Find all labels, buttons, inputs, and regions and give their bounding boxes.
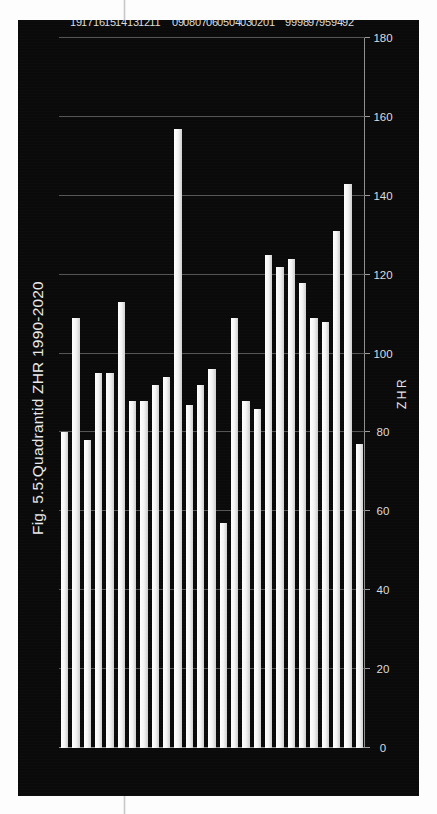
- y-tick-label: 02: [251, 20, 263, 28]
- x-tick-mark: [365, 274, 370, 275]
- chart-title: Fig. 5.5:Quadrantid ZHR 1990-2020: [29, 24, 47, 792]
- bar: [117, 302, 124, 748]
- bar: [276, 267, 283, 748]
- y-tick-label: 04: [228, 20, 240, 28]
- x-tick-label: 20: [376, 663, 389, 675]
- y-tick-label: 03: [239, 20, 251, 28]
- y-tick-label: 17: [81, 20, 93, 28]
- bar: [197, 385, 204, 748]
- bar: [61, 432, 68, 748]
- x-tick-mark: [365, 353, 370, 354]
- figure-panel: Fig. 5.5:Quadrantid ZHR 1990-2020 020406…: [18, 20, 419, 796]
- bar: [299, 283, 306, 748]
- bar: [344, 184, 351, 748]
- bar: [219, 523, 226, 748]
- gridline: [59, 353, 365, 354]
- x-tick-label: 160: [373, 111, 392, 123]
- y-tick-label: 94: [330, 20, 342, 28]
- x-tick-label: 120: [373, 269, 392, 281]
- y-tick-label: 95: [319, 20, 331, 28]
- bar: [321, 322, 328, 748]
- gridline: [59, 116, 365, 117]
- y-tick-label: 09: [171, 20, 183, 28]
- bar: [231, 318, 238, 748]
- bar: [253, 409, 260, 748]
- x-tick-mark: [365, 747, 370, 748]
- y-tick-label: 14: [115, 20, 127, 28]
- bar: [129, 401, 136, 748]
- x-tick-mark: [365, 195, 370, 196]
- bar: [333, 231, 340, 748]
- bar: [287, 259, 294, 748]
- x-tick-label: 80: [376, 426, 389, 438]
- bar: [151, 385, 158, 748]
- x-tick-mark: [365, 37, 370, 38]
- x-tick-mark: [365, 589, 370, 590]
- y-tick-label: 13: [126, 20, 138, 28]
- x-tick-label: 0: [379, 742, 385, 754]
- y-tick-label: 98: [296, 20, 308, 28]
- x-tick-label: 100: [373, 348, 392, 360]
- bar: [355, 444, 362, 748]
- x-tick-mark: [365, 510, 370, 511]
- y-tick-label: 19: [69, 20, 81, 28]
- gridline: [59, 274, 365, 275]
- y-tick-label: 06: [205, 20, 217, 28]
- y-tick-label: 1990: [347, 20, 371, 22]
- y-tick-label: 12: [137, 20, 149, 28]
- x-tick-mark: [365, 431, 370, 432]
- bar: [185, 405, 192, 748]
- y-tick-label: 97: [307, 20, 319, 28]
- y-tick-label: 05: [217, 20, 229, 28]
- bar: [265, 255, 272, 748]
- bar: [163, 377, 170, 748]
- bar: [106, 373, 113, 748]
- bar: [208, 369, 215, 748]
- y-tick-label: 16: [92, 20, 104, 28]
- gridline: [59, 195, 365, 196]
- y-tick-label: 08: [183, 20, 195, 28]
- y-tick-label: 07: [194, 20, 206, 28]
- x-tick-label: 40: [376, 584, 389, 596]
- plot-area: 020406080100120140160180 ZHR: [59, 38, 365, 748]
- x-tick-mark: [365, 116, 370, 117]
- bar: [140, 401, 147, 748]
- x-tick-label: 140: [373, 190, 392, 202]
- bar: [242, 401, 249, 748]
- x-tick-mark: [365, 668, 370, 669]
- bar: [174, 129, 181, 748]
- bar: [95, 373, 102, 748]
- gridline: [59, 37, 365, 38]
- x-tick-label: 180: [373, 32, 392, 44]
- y-tick-label: 15: [103, 20, 115, 28]
- bar: [83, 440, 90, 748]
- bar: [72, 318, 79, 748]
- x-axis-title: ZHR: [395, 38, 409, 748]
- page-background: Fig. 5.5:Quadrantid ZHR 1990-2020 020406…: [0, 0, 437, 814]
- bar: [310, 318, 317, 748]
- y-tick-label: 99: [285, 20, 297, 28]
- x-tick-label: 60: [376, 505, 389, 517]
- rotated-chart-canvas: Fig. 5.5:Quadrantid ZHR 1990-2020 020406…: [23, 24, 415, 792]
